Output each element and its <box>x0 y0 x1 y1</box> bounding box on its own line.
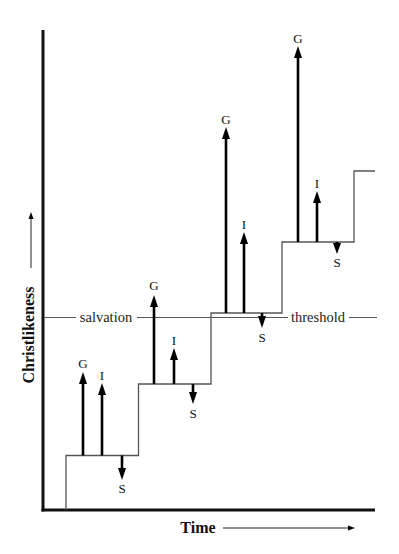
force-label-s: S <box>333 255 340 270</box>
force-label-s: S <box>189 406 196 421</box>
i-arrow-up-icon <box>98 383 106 456</box>
force-label-s: S <box>118 481 125 496</box>
i-arrow-up-icon <box>240 232 248 313</box>
x-axis-arrow-icon <box>223 526 355 531</box>
force-label-g: G <box>221 112 230 127</box>
y-axis-arrow-icon <box>29 212 34 268</box>
force-label-g: G <box>293 31 302 46</box>
g-arrow-up-icon <box>79 372 87 456</box>
salvation-label: salvation <box>80 309 133 325</box>
step-2-forces: G I S <box>149 278 197 421</box>
force-label-i: I <box>242 217 246 232</box>
s-arrow-down-icon <box>333 242 341 254</box>
g-arrow-up-icon <box>150 295 158 384</box>
i-arrow-up-icon <box>170 348 178 384</box>
s-arrow-down-icon <box>258 313 266 328</box>
step-4-forces: G I S <box>293 31 341 270</box>
s-arrow-down-icon <box>118 456 126 481</box>
x-axis-label: Time <box>180 519 215 536</box>
christlikeness-diagram: salvation threshold G I S G I <box>0 0 399 554</box>
force-label-g: G <box>78 356 87 371</box>
step-3-forces: G I S <box>221 112 266 345</box>
g-arrow-up-icon <box>222 127 230 313</box>
threshold-label: threshold <box>291 309 346 325</box>
s-arrow-down-icon <box>189 384 197 404</box>
i-arrow-up-icon <box>313 191 321 242</box>
g-arrow-up-icon <box>294 46 302 242</box>
force-label-s: S <box>258 330 265 345</box>
force-label-i: I <box>315 176 319 191</box>
christlikeness-staircase <box>66 171 375 510</box>
force-label-i: I <box>100 368 104 383</box>
force-label-i: I <box>172 333 176 348</box>
y-axis-label: Christlikeness <box>20 287 37 384</box>
step-1-forces: G I S <box>78 356 126 496</box>
force-label-g: G <box>149 278 158 293</box>
